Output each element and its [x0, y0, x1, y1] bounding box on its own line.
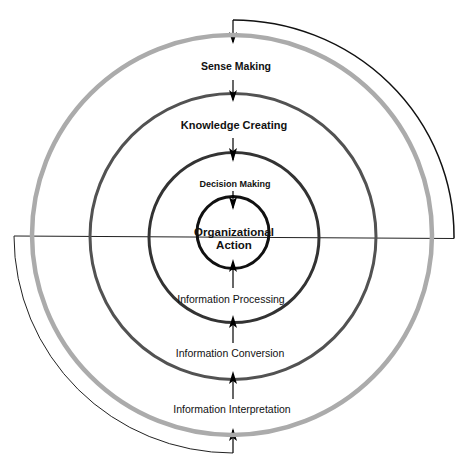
- label-sense-making: Sense Making: [201, 60, 271, 72]
- label-organizational-action-line1: Organizational: [194, 226, 274, 238]
- label-decision-making: Decision Making: [199, 179, 270, 189]
- left-feedback-path: [14, 236, 233, 453]
- knowing-organization-diagram: Sense Making Knowledge Creating Decision…: [0, 0, 468, 464]
- label-information-interpretation: Information Interpretation: [173, 403, 290, 415]
- label-information-conversion: Information Conversion: [176, 347, 285, 359]
- label-knowledge-creating: Knowledge Creating: [181, 119, 287, 131]
- label-organizational-action-line2: Action: [216, 239, 252, 251]
- label-information-processing: Information Processing: [177, 293, 285, 305]
